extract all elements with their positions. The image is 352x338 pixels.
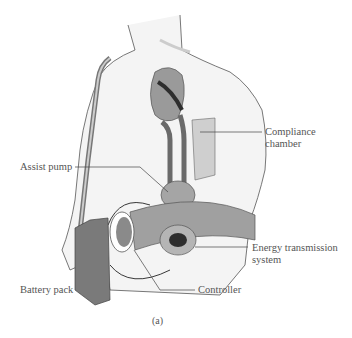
label-energy-transmission: Energy transmission system: [252, 242, 338, 266]
label-line: Energy transmission: [252, 242, 338, 254]
lvad-diagram: Compliance chamber Assist pump Energy tr…: [0, 0, 352, 338]
label-line: system: [252, 254, 338, 266]
label-line: Compliance: [265, 126, 316, 138]
label-line: chamber: [265, 138, 316, 150]
label-assist-pump: Assist pump: [20, 161, 72, 173]
label-battery-pack: Battery pack: [20, 284, 73, 296]
label-compliance-chamber: Compliance chamber: [265, 126, 316, 150]
figure-caption: (a): [152, 315, 163, 326]
label-controller: Controller: [198, 284, 241, 296]
